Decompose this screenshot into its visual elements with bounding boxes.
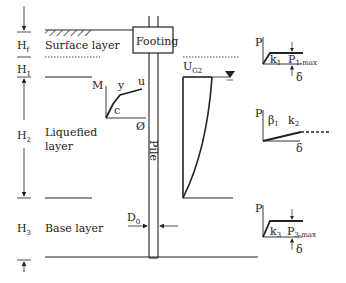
svg-text:k1: k1	[270, 53, 281, 67]
svg-text:k2: k2	[288, 114, 299, 128]
ground-surface	[45, 30, 133, 36]
pile-diameter: D0	[127, 211, 178, 226]
svg-text:P3-max: P3-max	[287, 225, 316, 239]
svg-text:P1-max: P1-max	[288, 53, 317, 67]
spring-curve-3: P k3 P3-max δ	[255, 202, 316, 256]
label-h1: H1	[17, 63, 31, 78]
dimension-column: Hf H1 H2 H3	[17, 6, 31, 272]
diameter-label: D0	[127, 211, 140, 226]
svg-text:δ: δ	[296, 243, 303, 256]
label-hf: Hf	[17, 39, 31, 54]
spring-curve-1: P k1 P1-max δ	[255, 36, 317, 84]
svg-text:Footing: Footing	[136, 35, 178, 48]
svg-text:M: M	[92, 79, 103, 92]
ground-displacement-profile: UG2	[183, 60, 235, 198]
svg-text:β1: β1	[268, 114, 279, 128]
moment-curvature-plot: M c y u Ø	[92, 75, 146, 133]
liquefied-layer-label-1: Liquefied	[45, 126, 97, 139]
svg-text:c: c	[114, 104, 120, 117]
svg-text:y: y	[117, 79, 125, 92]
liquefied-layer-label-2: layer	[45, 140, 74, 153]
svg-text:P: P	[255, 36, 263, 49]
pile-label: Pile	[147, 140, 160, 161]
svg-text:Ø: Ø	[136, 120, 145, 133]
footing: Footing	[133, 27, 178, 53]
label-h2: H2	[17, 129, 31, 144]
svg-text:δ: δ	[296, 71, 303, 84]
label-h3: H3	[17, 222, 31, 237]
svg-text:k3: k3	[270, 225, 281, 239]
surface-layer-label: Surface layer	[45, 39, 120, 52]
spring-curve-2: P β1 k2 δ	[255, 107, 331, 155]
svg-text:UG2: UG2	[183, 60, 202, 75]
svg-text:u: u	[138, 75, 145, 88]
pile-diagram: Hf H1 H2 H3 Surface layer Liquefied laye…	[0, 0, 346, 283]
svg-text:δ: δ	[296, 142, 303, 155]
svg-text:P: P	[255, 107, 263, 120]
svg-text:P: P	[255, 202, 263, 215]
base-layer-label: Base layer	[45, 222, 104, 235]
